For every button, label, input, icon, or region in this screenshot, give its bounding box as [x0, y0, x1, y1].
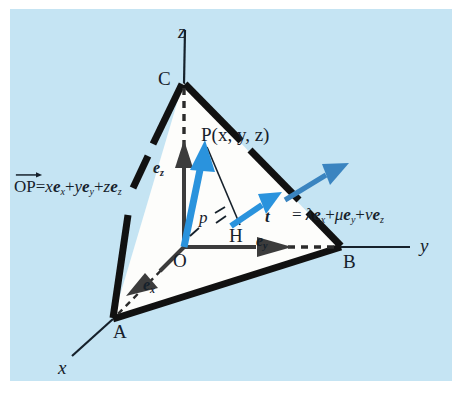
basis-sub-x-2: x — [321, 214, 325, 225]
equation-position-vector: OP =xex+yey+zez — [14, 178, 122, 195]
point-label-p: P(x, y, z) — [201, 125, 269, 144]
background-margin-right — [452, 0, 462, 393]
coeff-x: x — [45, 177, 53, 196]
equation-direction-vector: = λex+μey+νez — [292, 206, 384, 223]
plus-2: + — [94, 177, 104, 196]
basis-e-6: e — [373, 205, 381, 224]
basis-label-ez: ez — [153, 160, 164, 176]
basis-sub-z-1: z — [118, 186, 122, 197]
basis-sub-y-2: y — [351, 214, 355, 225]
plus-4: + — [355, 205, 365, 224]
annotation-p: p — [199, 209, 208, 226]
background-margin-left — [0, 0, 10, 393]
plus-3: + — [325, 205, 335, 224]
point-label-a: A — [113, 322, 127, 341]
point-label-h: H — [229, 226, 243, 245]
basis-e-3: e — [110, 177, 118, 196]
basis-sub-z-2: z — [380, 214, 384, 225]
diagram-canvas — [0, 0, 462, 393]
basis-e-5: e — [343, 205, 351, 224]
basis-label-ez-sub: z — [160, 167, 164, 178]
background-margin-bottom — [0, 381, 462, 393]
basis-label-ey-sub: y — [263, 240, 267, 251]
point-label-o: O — [173, 251, 187, 270]
axis-label-x: x — [58, 358, 66, 377]
op-vector-text: OP — [14, 178, 36, 195]
annotation-t: t — [265, 208, 270, 225]
eq-sign-1: = — [36, 177, 46, 196]
axis-label-y: y — [420, 236, 428, 255]
basis-e-4: e — [313, 205, 321, 224]
basis-label-ex: ex — [143, 277, 155, 293]
basis-sub-y-1: y — [90, 186, 94, 197]
basis-label-ey: ey — [256, 233, 268, 249]
point-label-c: C — [158, 69, 171, 88]
point-label-b: B — [343, 252, 356, 271]
overarrow-icon — [14, 171, 44, 178]
axis-label-z: z — [178, 22, 185, 41]
eq-sign-2: = — [292, 205, 302, 224]
figure-diagram: z y x C A B O H P(x, y, z) ez ey ex p t … — [0, 0, 462, 393]
op-vector-symbol: OP — [14, 178, 36, 195]
basis-e-2: e — [82, 177, 90, 196]
basis-sub-x-1: x — [60, 186, 64, 197]
basis-label-ex-sub: x — [150, 284, 155, 295]
background-margin-top — [0, 0, 462, 9]
coeff-y: y — [74, 177, 82, 196]
coeff-nu: ν — [365, 205, 373, 224]
